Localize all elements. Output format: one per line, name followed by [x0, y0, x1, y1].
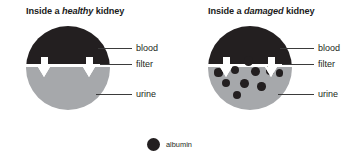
healthy-blood-leader-line: [98, 48, 132, 49]
healthy-kidney-circle: [26, 26, 110, 110]
healthy-label-blood: blood: [136, 43, 158, 53]
panel-healthy-title-prefix: Inside a: [26, 6, 62, 16]
damaged-kidney-circle: [208, 26, 292, 110]
figure-canvas: Inside a healthy kidney blood filter uri…: [0, 0, 361, 165]
panel-damaged-title-prefix: Inside a: [208, 6, 244, 16]
arrow-head: [220, 67, 232, 77]
healthy-label-filter: filter: [136, 59, 153, 69]
albumin-particle: [233, 91, 241, 99]
damaged-filter-leader-line: [282, 64, 314, 65]
arrow-head: [83, 67, 95, 77]
damaged-flow-arrow-down-icon: [220, 57, 233, 77]
arrow-head: [38, 67, 50, 77]
panel-damaged-title-suffix: kidney: [284, 6, 315, 16]
damaged-urine-leader-line: [278, 94, 314, 95]
albumin-particle: [244, 56, 253, 65]
albumin-particle: [257, 82, 265, 90]
damaged-flow-arrow-down-icon: [265, 57, 278, 77]
panel-damaged-title-emphasis: damaged: [244, 6, 284, 16]
healthy-filter-leader-line: [100, 64, 132, 65]
legend: albumin: [147, 138, 192, 151]
panel-healthy-kidney: Inside a healthy kidney blood filter uri…: [0, 0, 180, 128]
albumin-particle: [240, 79, 249, 88]
damaged-label-filter: filter: [318, 59, 335, 69]
panel-damaged-kidney: Inside a damaged kidney blood filter uri…: [181, 0, 361, 128]
damaged-label-urine: urine: [318, 89, 338, 99]
damaged-blood-leader-line: [280, 48, 314, 49]
legend-albumin-label: albumin: [166, 140, 192, 149]
arrow-head: [265, 67, 277, 77]
healthy-flow-arrow-down-icon: [83, 57, 96, 77]
healthy-urine-leader-line: [96, 94, 132, 95]
panel-healthy-title: Inside a healthy kidney: [26, 6, 124, 16]
panel-damaged-title: Inside a damaged kidney: [208, 6, 314, 16]
panel-healthy-title-emphasis: healthy: [62, 6, 93, 16]
healthy-flow-arrow-down-icon: [38, 57, 51, 77]
legend-albumin-dot-icon: [147, 138, 160, 151]
healthy-label-urine: urine: [136, 89, 156, 99]
panel-healthy-title-suffix: kidney: [93, 6, 124, 16]
damaged-label-blood: blood: [318, 43, 340, 53]
